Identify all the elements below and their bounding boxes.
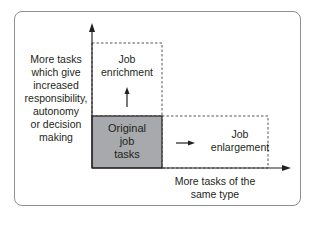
enrichment-label-line: Job (92, 53, 162, 66)
job-enrichment-label: Job enrichment (92, 53, 162, 79)
y-axis-arrow-icon (89, 23, 95, 32)
y-label-line: responsibility, (20, 92, 92, 105)
original-label-line: job (92, 135, 162, 148)
x-axis-arrow-icon (282, 165, 291, 171)
original-job-tasks-label: Original job tasks (92, 122, 162, 161)
y-label-line: making (20, 131, 92, 144)
x-axis-label: More tasks of the same type (150, 175, 280, 201)
enlargement-label-line: enlargement (205, 141, 275, 154)
original-label-line: tasks (92, 148, 162, 161)
y-label-line: increased (20, 79, 92, 92)
enlargement-label-line: Job (205, 128, 275, 141)
enlargement-arrow-icon (188, 141, 195, 146)
enrichment-arrow-icon (125, 87, 130, 94)
y-axis-label: More tasks which give increased responsi… (20, 53, 92, 144)
y-label-line: which give (20, 66, 92, 79)
y-label-line: autonomy (20, 105, 92, 118)
x-label-line: More tasks of the (150, 175, 280, 188)
y-label-line: or decision (20, 118, 92, 131)
y-label-line: More tasks (20, 53, 92, 66)
x-label-line: same type (150, 188, 280, 201)
job-enlargement-label: Job enlargement (205, 128, 275, 154)
original-label-line: Original (92, 122, 162, 135)
enrichment-label-line: enrichment (92, 66, 162, 79)
